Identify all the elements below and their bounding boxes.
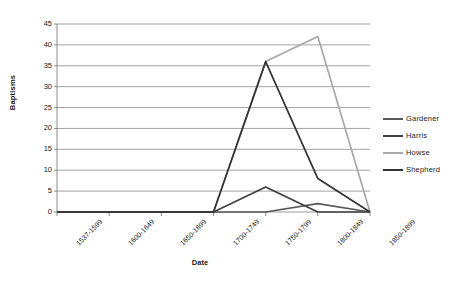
legend-item-shepherd[interactable]: Shepherd — [383, 161, 469, 178]
legend-item-harris[interactable]: Harris — [383, 127, 469, 144]
series-line-howse — [57, 37, 370, 212]
legend-swatch-icon — [383, 135, 403, 137]
legend-label: Harris — [406, 131, 427, 140]
chart-legend: GardenerHarrisHowseShepherd — [383, 110, 469, 178]
legend-item-gardener[interactable]: Gardener — [383, 110, 469, 127]
legend-label: Gardener — [406, 114, 439, 123]
series-line-shepherd — [57, 62, 370, 212]
series-line-harris — [57, 187, 370, 212]
legend-swatch-icon — [383, 152, 403, 154]
legend-label: Howse — [406, 148, 430, 157]
legend-label: Shepherd — [406, 165, 440, 174]
legend-swatch-icon — [383, 118, 403, 120]
legend-item-howse[interactable]: Howse — [383, 144, 469, 161]
legend-swatch-icon — [383, 169, 403, 171]
line-chart: Baptisms Date 051015202530354045 1537-15… — [0, 0, 471, 283]
